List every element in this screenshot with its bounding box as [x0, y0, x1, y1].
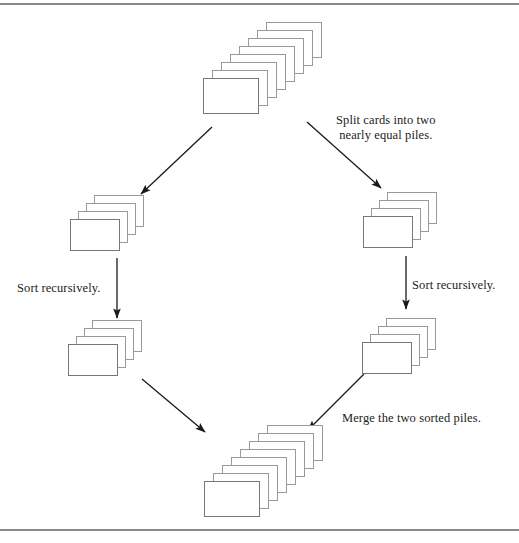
top-rule: [0, 3, 519, 5]
card-front: [203, 78, 259, 114]
card-front: [363, 216, 413, 248]
sort-right-label: Sort recursively.: [412, 278, 496, 293]
split-left-arrow: [141, 127, 212, 194]
card-front: [204, 481, 260, 517]
split-label: Split cards into two nearly equal piles.: [336, 113, 436, 143]
mergesort-figure: Split cards into two nearly equal piles.…: [0, 0, 519, 543]
card-front: [68, 344, 118, 376]
card-front: [70, 219, 120, 251]
merge-left-arrow: [142, 379, 205, 432]
sort-left-label: Sort recursively.: [17, 281, 101, 296]
card-front: [362, 342, 412, 374]
bottom-rule: [0, 529, 519, 531]
merge-label: Merge the two sorted piles.: [342, 411, 481, 426]
